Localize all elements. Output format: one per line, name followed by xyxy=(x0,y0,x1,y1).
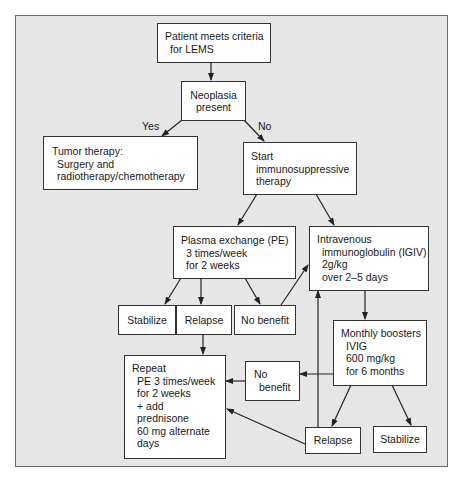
node-text: prednisone xyxy=(132,412,225,425)
node-relapse-pe: Relapse xyxy=(176,305,232,335)
node-monthly-boosters: Monthly boosters IVIG 600 mg/kg for 6 mo… xyxy=(333,320,427,386)
node-text: Start xyxy=(251,150,356,163)
node-text: Surgery and xyxy=(52,158,197,171)
node-text: for 2 weeks xyxy=(181,259,295,272)
node-text: 60 mg alternate xyxy=(132,425,225,438)
node-plasma-exchange: Plasma exchange (PE) 3 times/week for 2 … xyxy=(173,226,296,279)
node-stabilize-pe: Stabilize xyxy=(118,305,176,335)
node-patient-meets-criteria: Patient meets criteria for LEMS xyxy=(157,23,271,63)
node-text: Stabilize xyxy=(119,314,175,327)
node-text: Stabilize xyxy=(374,433,426,446)
node-repeat-pe-prednisone: Repeat PE 3 times/week for 2 weeks + add… xyxy=(124,355,226,459)
edge-label-yes: Yes xyxy=(142,120,159,132)
node-neoplasia-present: Neoplasia present xyxy=(181,81,246,121)
node-text: PE 3 times/week xyxy=(132,375,225,388)
node-text: benefit xyxy=(254,381,299,394)
node-text: 600 mg/kg xyxy=(341,352,426,365)
node-text: + add xyxy=(132,400,225,413)
node-no-benefit-pe: No benefit xyxy=(234,305,296,335)
node-text: days xyxy=(132,437,225,450)
node-intravenous-immunoglobulin: Intravenous immunoglobulin (IGIV) 2g/kg … xyxy=(309,226,429,291)
node-stabilize-ivig: Stabilize xyxy=(373,426,427,453)
node-start-immunosuppressive: Start immunosuppressive therapy xyxy=(243,142,357,195)
node-text: immunosuppressive xyxy=(251,163,356,176)
node-text: 2g/kg xyxy=(317,258,428,271)
node-tumor-therapy: Tumor therapy: Surgery and radiotherapy/… xyxy=(43,136,198,190)
node-text: present xyxy=(182,101,245,114)
edge-label-no: No xyxy=(258,120,271,132)
node-text: therapy xyxy=(251,175,356,188)
node-text: Plasma exchange (PE) xyxy=(181,234,295,247)
node-text: Tumor therapy: xyxy=(52,145,197,158)
node-text: No xyxy=(254,368,299,381)
node-relapse-ivig: Relapse xyxy=(305,427,361,454)
node-text: 3 times/week xyxy=(181,247,295,260)
node-text: Relapse xyxy=(177,314,231,327)
node-text: Patient meets criteria xyxy=(165,30,270,43)
node-no-benefit-ivig: No benefit xyxy=(245,361,300,401)
node-text: Monthly boosters xyxy=(341,327,426,340)
node-text: Neoplasia xyxy=(182,89,245,102)
node-text: Relapse xyxy=(306,434,360,447)
node-text: for 6 months xyxy=(341,365,426,378)
node-text: No benefit xyxy=(235,314,295,327)
node-text: for 2 weeks xyxy=(132,387,225,400)
node-text: Intravenous xyxy=(317,233,428,246)
node-text: Repeat xyxy=(132,362,225,375)
node-text: immunoglobulin (IGIV) xyxy=(317,246,428,259)
node-text: IVIG xyxy=(341,340,426,353)
node-text: for LEMS xyxy=(165,43,270,56)
node-text: radiotherapy/chemotherapy xyxy=(52,170,197,183)
node-text: over 2–5 days xyxy=(317,271,428,284)
